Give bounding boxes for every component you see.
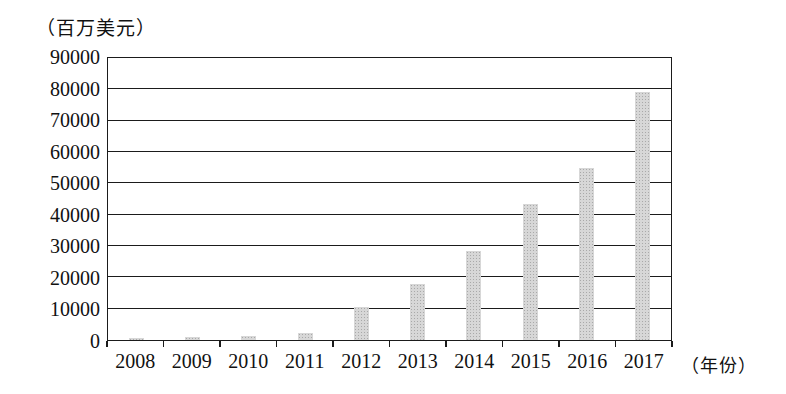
x-tick-label-2014: 2014 (454, 350, 494, 372)
y-axis-unit-label: （百万美元） (36, 13, 156, 40)
x-tick-label-2012: 2012 (341, 350, 381, 372)
x-axis-tick (332, 341, 334, 347)
bar-2010 (241, 336, 256, 340)
x-axis-tick (558, 341, 560, 347)
y-tick-label: 30000 (28, 236, 100, 256)
x-tick-label-2017: 2017 (624, 350, 664, 372)
x-axis-tick (445, 341, 447, 347)
x-axis-tick (276, 341, 278, 347)
x-axis-tick (615, 341, 617, 347)
x-tick-label-2009: 2009 (172, 350, 212, 372)
x-tick-label-2011: 2011 (285, 350, 324, 372)
x-axis-tick (219, 341, 221, 347)
bar-2011 (298, 333, 313, 340)
bar-2008 (129, 338, 144, 340)
x-axis-tick (106, 341, 108, 347)
x-axis-tick (163, 341, 165, 347)
bar-2016 (579, 168, 594, 340)
y-tick-label: 10000 (28, 299, 100, 319)
y-tick-label: 90000 (28, 47, 100, 67)
bar-2012 (354, 307, 369, 340)
gridline-80000 (108, 88, 671, 89)
y-tick-label: 60000 (28, 142, 100, 162)
bar-2017 (635, 92, 650, 340)
y-tick-label: 80000 (28, 79, 100, 99)
y-tick-label: 50000 (28, 173, 100, 193)
x-tick-label-2015: 2015 (511, 350, 551, 372)
gridline-60000 (108, 151, 671, 152)
y-tick-label: 0 (28, 331, 100, 351)
bar-2013 (410, 284, 425, 340)
gridline-70000 (108, 120, 671, 121)
x-tick-label-2010: 2010 (228, 350, 268, 372)
bar-2009 (185, 337, 200, 340)
y-tick-label: 70000 (28, 110, 100, 130)
x-axis-tick (671, 341, 673, 347)
bar-2015 (523, 204, 538, 340)
plot-area (107, 57, 672, 341)
x-axis-tick (389, 341, 391, 347)
y-tick-label: 40000 (28, 205, 100, 225)
bar-2014 (466, 251, 481, 340)
y-tick-label: 20000 (28, 268, 100, 288)
bar-chart: （百万美元） 010000200003000040000500006000070… (0, 0, 786, 394)
x-tick-label-2008: 2008 (115, 350, 155, 372)
x-axis-title: （年份） (681, 351, 757, 377)
x-axis-tick (502, 341, 504, 347)
x-tick-label-2016: 2016 (567, 350, 607, 372)
x-tick-label-2013: 2013 (398, 350, 438, 372)
